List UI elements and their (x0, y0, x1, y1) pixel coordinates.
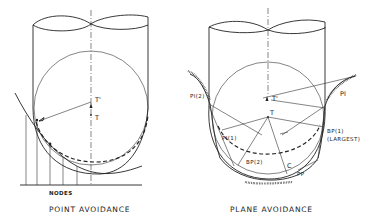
point-avoidance-figure: T' T NODES POINT AVOIDANCE (15, 10, 148, 214)
pi2-label: PI(2) (190, 93, 205, 99)
tool-profile (209, 106, 325, 179)
t-label: T (94, 114, 99, 122)
radius-arrow (39, 102, 91, 121)
pp-label: PP (297, 171, 305, 177)
original-position-curve (36, 115, 148, 162)
bp1-note-label: (LARGEST) (327, 136, 360, 142)
bp2-label: BP(2) (246, 159, 263, 165)
plane-avoidance-figure: PI(2) PI T' T PI(1) BP(1) (LARGEST) BP(2… (188, 8, 360, 214)
t-label: T (269, 109, 274, 117)
c-label: C (287, 162, 292, 170)
t-prime-marker (90, 103, 93, 108)
pi-label: PI (340, 90, 346, 98)
tool-shank-top (209, 20, 325, 30)
t-prime-label: T' (94, 96, 101, 104)
diagram-canvas: T' T NODES POINT AVOIDANCE (0, 0, 378, 224)
tool-shank-top (33, 15, 148, 25)
nodes-label: NODES (49, 190, 73, 196)
t-prime-label: T' (271, 95, 278, 103)
node-lines (26, 115, 77, 185)
point-avoidance-caption: POINT AVOIDANCE (49, 205, 130, 214)
pi1-label: PI(1) (222, 135, 237, 141)
t-point (90, 114, 92, 116)
bp1-label: BP(1) (327, 128, 344, 134)
t-point (267, 116, 269, 118)
plane-avoidance-caption: PLANE AVOIDANCE (230, 205, 313, 214)
